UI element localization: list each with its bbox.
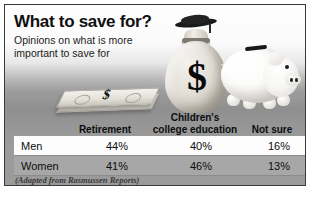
piggy-bank-illustration (219, 41, 306, 119)
data-table: Men 44% 40% 16% Women 41% 46% 13% (14, 136, 306, 176)
piggy-nostril (290, 78, 293, 82)
column-header-college: Children's college education (144, 112, 246, 135)
column-header-retirement: Retirement (69, 124, 141, 136)
cell-men-not-sure: 16% (249, 136, 306, 156)
cell-women-college: 46% (153, 156, 249, 176)
column-header-college-line-1: Children's (144, 112, 246, 124)
cell-women-retirement: 41% (81, 156, 153, 176)
page-title: What to save for? (14, 12, 152, 31)
banknote-seal (72, 95, 92, 106)
table-column-headers: Retirement Children's college education … (5, 109, 306, 135)
row-label-men: Men (14, 136, 81, 156)
cell-men-retirement: 44% (81, 136, 153, 156)
cell-men-college: 40% (153, 136, 249, 156)
source-attribution: (Adapted from Rasmussen Reports) (15, 175, 139, 185)
row-label-women: Women (14, 156, 81, 176)
table-row: Women 41% 46% 13% (14, 156, 306, 176)
subtitle-line-1: Opinions on what is more (14, 34, 152, 47)
column-header-college-line-2: college education (144, 124, 246, 136)
headline-block: What to save for? Opinions on what is mo… (14, 12, 152, 59)
graduation-cap-tassel-icon (209, 23, 211, 33)
banknote-seal (123, 93, 143, 104)
table-row: Men 44% 40% 16% (14, 136, 306, 156)
piggy-eye (285, 65, 289, 69)
piggy-snout (285, 73, 301, 86)
infographic-panel: What to save for? Opinions on what is mo… (4, 4, 306, 186)
column-header-not-sure: Not sure (243, 124, 301, 136)
cell-women-not-sure: 13% (249, 156, 306, 176)
subtitle-line-2: important to save for (14, 47, 152, 60)
piggy-nostril (295, 78, 298, 82)
